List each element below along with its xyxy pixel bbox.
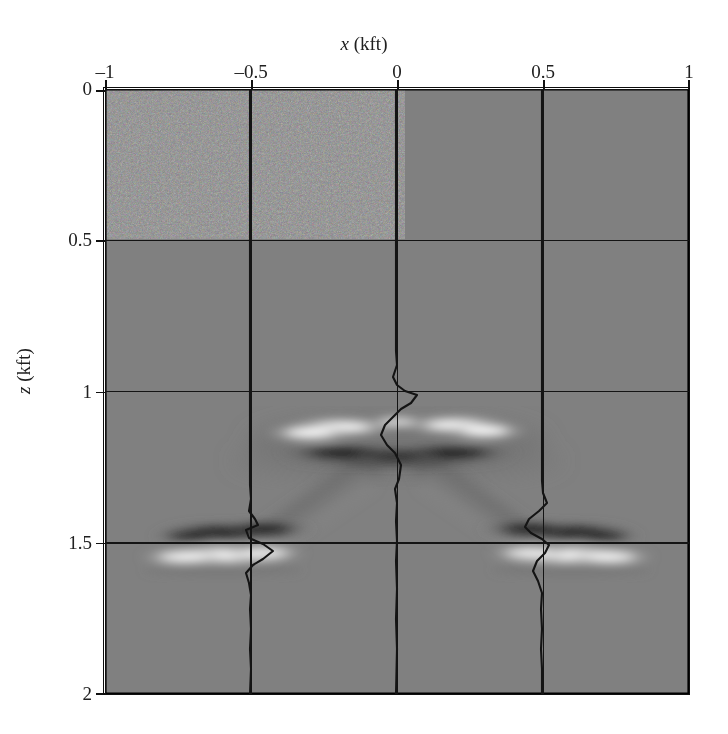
x-tick-mark-1 xyxy=(688,80,690,89)
z-tick-mark-1 xyxy=(96,392,105,394)
z-tick-mark-0-5 xyxy=(96,240,105,242)
z-tick-label-2: 2 xyxy=(44,683,92,705)
seismic-figure: x (kft) z (kft) –1 –0.5 0 0.5 1 0 0.5 1 … xyxy=(0,0,728,734)
seismic-image-plot-area[interactable] xyxy=(105,89,689,694)
z-tick-label-0: 0 xyxy=(44,78,92,100)
x-axis-title: x (kft) xyxy=(0,33,728,55)
z-axis-title: z (kft) xyxy=(13,311,35,431)
wiggle-trace-x-neg0-5 xyxy=(246,89,273,694)
z-tick-mark-2 xyxy=(96,693,105,695)
wiggle-trace-x-0 xyxy=(381,89,417,694)
x-tick-mark-0-5 xyxy=(543,80,545,89)
z-axis-variable: z xyxy=(13,387,34,394)
z-tick-label-1-5: 1.5 xyxy=(44,532,92,554)
wiggle-trace-x-plus0-5 xyxy=(525,89,549,694)
wiggle-trace-layer xyxy=(105,89,689,694)
z-tick-label-0-5: 0.5 xyxy=(44,229,92,251)
z-tick-mark-0 xyxy=(96,90,105,92)
x-tick-mark-neg1 xyxy=(105,80,107,89)
z-tick-mark-1-5 xyxy=(96,543,105,545)
x-axis-unit: (kft) xyxy=(349,33,388,54)
z-tick-label-1: 1 xyxy=(44,381,92,403)
x-tick-mark-0 xyxy=(397,80,399,89)
x-tick-mark-neg0-5 xyxy=(251,80,253,89)
x-axis-variable: x xyxy=(341,33,349,54)
z-axis-unit: (kft) xyxy=(13,348,34,387)
